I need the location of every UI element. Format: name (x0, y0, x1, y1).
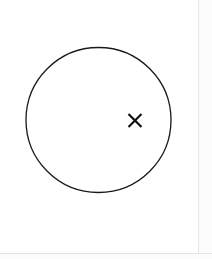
figure-drawing (0, 0, 212, 259)
page-margin-bottom (0, 254, 212, 259)
figure-canvas: × (0, 0, 212, 259)
canvas-background (0, 0, 212, 259)
page-margin-right (199, 0, 212, 259)
